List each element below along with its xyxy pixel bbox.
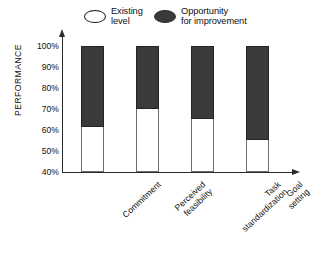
figure-stacked-bar-chart: Existing level Opportunity for improveme… [0,0,325,254]
x-label-perceived-feasibility: Perceived feasibility [173,180,214,220]
x-axis-category-labels: Commitment Perceived feasibility Task st… [0,0,325,254]
plot-area: PERFORMANCE 100% 90% 80% 70% 60% 50% 40% [0,0,325,254]
x-label-goal-setting: Goal setting [280,180,312,212]
figure-caption [8,245,318,254]
x-label-commitment: Commitment [121,180,163,220]
x-label-task-standardization: Task standardization [234,180,290,234]
